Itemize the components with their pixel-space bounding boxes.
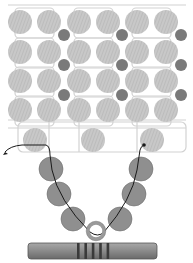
v-bead <box>47 182 71 206</box>
large-bead <box>67 69 91 93</box>
large-bead <box>37 10 61 34</box>
toggle-bar-stripe <box>99 243 102 259</box>
large-bead <box>154 10 178 34</box>
large-bead <box>125 10 149 34</box>
bottom-row-beads <box>23 128 164 152</box>
bottom-bead <box>81 128 105 152</box>
small-bead <box>175 89 187 101</box>
large-bead <box>8 69 32 93</box>
large-bead <box>154 98 178 122</box>
small-bead <box>116 29 128 41</box>
small-bead <box>116 89 128 101</box>
small-bead <box>58 29 70 41</box>
large-bead <box>96 40 120 64</box>
v-bead <box>129 157 153 181</box>
large-bead <box>154 69 178 93</box>
toggle-bar-stripe <box>107 243 110 259</box>
large-bead <box>125 69 149 93</box>
large-bead <box>96 69 120 93</box>
bottom-bead <box>23 128 47 152</box>
bottom-bead <box>140 128 164 152</box>
v-strand-beads <box>39 157 153 231</box>
large-bead <box>67 40 91 64</box>
small-bead <box>58 89 70 101</box>
large-bead <box>37 98 61 122</box>
large-bead <box>125 40 149 64</box>
large-bead <box>37 69 61 93</box>
diagram-canvas <box>0 0 193 263</box>
toggle-clasp <box>28 221 157 259</box>
large-bead <box>67 10 91 34</box>
beading-diagram <box>0 0 193 263</box>
large-bead <box>8 40 32 64</box>
large-bead <box>125 98 149 122</box>
large-bead <box>37 40 61 64</box>
large-bead <box>96 98 120 122</box>
thread-start-dot <box>142 143 146 147</box>
v-bead <box>61 207 85 231</box>
large-bead <box>154 40 178 64</box>
small-bead <box>58 59 70 71</box>
large-bead <box>96 10 120 34</box>
toggle-bar-stripe <box>92 243 95 259</box>
small-bead <box>116 59 128 71</box>
clasp-ring <box>88 223 104 239</box>
large-beads-grid <box>8 10 178 122</box>
small-bead <box>175 59 187 71</box>
toggle-bar-stripe <box>77 243 80 259</box>
large-bead <box>8 10 32 34</box>
large-bead <box>8 98 32 122</box>
toggle-bar-stripe <box>84 243 87 259</box>
thread-arrow-icon <box>3 152 8 155</box>
small-bead <box>175 29 187 41</box>
large-bead <box>67 98 91 122</box>
